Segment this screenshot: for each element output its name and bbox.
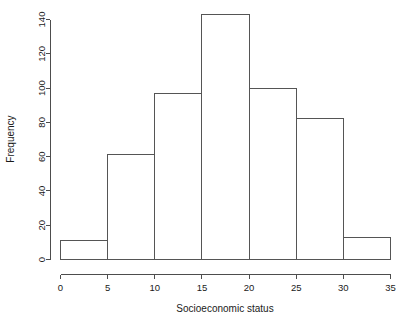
x-tick-label: 10	[149, 282, 160, 293]
histogram-bar	[61, 241, 108, 260]
y-tick-label: 120	[36, 46, 47, 62]
histogram-figure: 020406080100120140 05101520253035 Freque…	[0, 0, 409, 322]
y-tick-label: 40	[36, 186, 47, 197]
x-tick-label: 15	[197, 282, 208, 293]
y-tick-label: 60	[36, 151, 47, 162]
y-tick-label: 100	[36, 80, 47, 96]
x-tick-label: 30	[338, 282, 349, 293]
histogram-bar	[343, 237, 390, 259]
x-tick-label: 35	[385, 282, 396, 293]
histogram-bar	[249, 88, 296, 259]
x-tick-label: 25	[291, 282, 302, 293]
y-tick-label: 20	[36, 220, 47, 231]
histogram-bar	[202, 14, 249, 259]
histogram-bar	[155, 93, 202, 259]
plot-canvas: 020406080100120140 05101520253035 Freque…	[0, 0, 409, 322]
histogram-bar	[296, 119, 343, 260]
y-axis-title: Frequency	[5, 115, 16, 162]
x-tick-label: 20	[244, 282, 255, 293]
histogram-bars	[61, 14, 391, 259]
x-axis-ticks	[61, 275, 391, 279]
x-axis-tick-labels: 05101520253035	[58, 282, 396, 293]
x-tick-label: 5	[105, 282, 110, 293]
y-tick-label: 140	[36, 12, 47, 28]
y-tick-label: 0	[36, 257, 47, 262]
x-tick-label: 0	[58, 282, 63, 293]
y-axis-tick-labels: 020406080100120140	[36, 12, 47, 263]
x-axis-title: Socioeconomic status	[176, 303, 273, 314]
y-tick-label: 80	[36, 117, 47, 128]
histogram-bar	[108, 155, 155, 260]
